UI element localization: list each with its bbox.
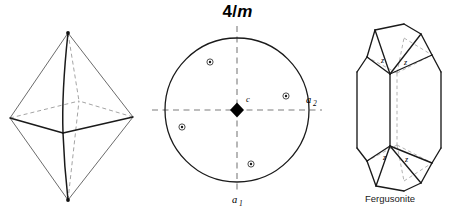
edge-upper-front-left [375,30,390,74]
edge-top-right [404,24,421,34]
edge-front-right-junction [390,55,432,74]
edge-top-left [10,33,68,118]
edge-lower-right-slope [421,163,432,183]
hidden-edge-right-back [79,101,133,117]
edge-top-right [68,33,133,117]
tetragonal-bipyramid [10,31,133,202]
edge-left-shoulder [357,57,367,72]
a1-axis-label: a 1 [232,194,243,208]
bipyramid-visible-edges [10,33,133,200]
edge-bottom-front [376,186,404,191]
pole-dot [209,61,211,63]
pole-lower [248,161,254,167]
apex-top-vertex [66,31,70,35]
fergusonite-crystal: z z z z [357,24,441,191]
stereogram-panel: c a 2 a 1 [150,0,325,213]
hidden-edge-top-back [68,33,79,101]
pole-left [179,124,185,130]
pole-dot [181,126,183,128]
a2-axis-label: a 2 [306,94,317,108]
crystallography-figure: 4/m [0,0,455,213]
edge-front-left-lower-junction [367,146,390,161]
edge-right-lower-shoulder [432,148,441,163]
pole-dot [250,163,252,165]
edge-upper-left-slope [367,30,375,57]
bipyramid-panel [0,0,150,213]
a2-label-base: a [306,94,311,105]
crystal-panel: z z z z [325,0,455,213]
center-axis-label: c [246,94,250,104]
pole-upper-left [207,59,213,65]
edge-left-bottom [10,118,68,200]
a1-label-base: a [232,194,237,205]
four-fold-axis-diamond [230,103,244,118]
hidden-edge-bottom-back [68,101,79,200]
edge-right-shoulder [432,55,441,72]
bipyramid-hidden-edges [10,33,133,200]
edge-top-front [375,24,404,30]
face-label-z-lower-right: z [404,155,409,164]
edge-bottom-right [404,183,421,191]
a2-label-subscript: 2 [313,99,317,108]
edge-lower-left-slope [367,161,376,186]
apex-bottom-vertex [66,198,70,202]
edge-upper-front-right [390,34,421,74]
pole-right [283,93,289,99]
mineral-caption: Fergusonite [325,193,455,204]
a1-label-subscript: 1 [239,199,243,208]
crystal-visible-edges [357,24,441,191]
edge-left-lower-shoulder [357,148,367,161]
edge-top-front [63,33,68,133]
pole-dot [285,95,287,97]
edge-front-bottom [63,133,68,200]
bipyramid-outline-edges [10,33,133,200]
edge-left-front [10,118,63,133]
